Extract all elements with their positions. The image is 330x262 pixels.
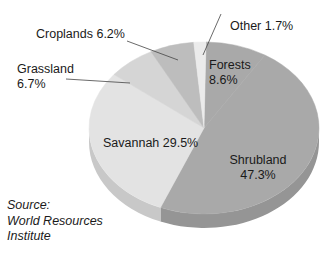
savannah-label-text: Savannah 29.5% xyxy=(103,136,198,150)
grassland-label-value: 6.7% xyxy=(17,77,74,92)
croplands-label-text: Croplands 6.2% xyxy=(36,27,125,41)
source-line-1: Source: xyxy=(7,198,103,214)
forests-label-name: Forests xyxy=(209,58,251,73)
slice-label-shrubland: Shrubland 47.3% xyxy=(226,153,290,183)
slice-label-savannah: Savannah 29.5% xyxy=(103,136,198,151)
slice-label-other: Other 1.7% xyxy=(230,19,293,34)
shrubland-label-name: Shrubland xyxy=(226,153,290,168)
other-label-text: Other 1.7% xyxy=(230,19,293,33)
source-line-2: World Resources xyxy=(7,214,103,230)
grassland-label-name: Grassland xyxy=(17,62,74,77)
pie-chart: Other 1.7% Croplands 6.2% Grassland 6.7%… xyxy=(0,0,330,262)
forests-label-value: 8.6% xyxy=(209,73,251,88)
pie-top-face xyxy=(89,42,319,214)
slice-label-croplands: Croplands 6.2% xyxy=(36,27,125,42)
shrubland-label-value: 47.3% xyxy=(226,168,290,183)
source-note: Source: World Resources Institute xyxy=(7,198,103,245)
slice-label-forests: Forests 8.6% xyxy=(209,58,251,88)
source-line-3: Institute xyxy=(7,229,103,245)
slice-label-grassland: Grassland 6.7% xyxy=(17,62,74,92)
